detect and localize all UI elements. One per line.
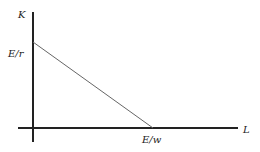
y-axis-label: K (17, 9, 26, 20)
y-intercept-label: E/r (7, 48, 25, 59)
x-intercept-label: E/w (141, 134, 162, 145)
isocost-diagram: K E/r E/w L (0, 0, 260, 152)
x-axis-label: L (242, 124, 250, 135)
budget-line (33, 42, 153, 128)
